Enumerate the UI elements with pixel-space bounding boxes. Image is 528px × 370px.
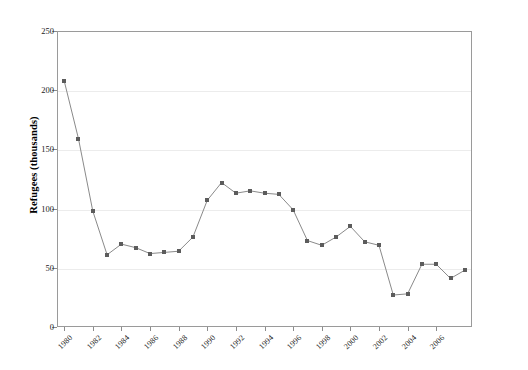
data-point-marker	[291, 208, 295, 212]
x-tick-mark	[350, 327, 351, 331]
gridline-y	[58, 150, 471, 151]
x-tick-mark	[436, 327, 437, 331]
x-tick-label: 1988	[171, 333, 189, 351]
x-tick-mark	[121, 327, 122, 331]
data-point-marker	[363, 240, 367, 244]
data-point-marker	[162, 250, 166, 254]
data-point-marker	[205, 198, 209, 202]
gridline-y	[58, 91, 471, 92]
x-tick-mark	[236, 327, 237, 331]
data-point-marker	[434, 262, 438, 266]
x-tick-mark	[322, 327, 323, 331]
data-point-marker	[105, 253, 109, 257]
data-point-marker	[277, 192, 281, 196]
refugees-line-chart: Refugees (thousands) 0501001502002501980…	[0, 0, 528, 370]
x-tick-mark	[379, 327, 380, 331]
x-tick-label: 1992	[228, 333, 246, 351]
x-tick-mark	[150, 327, 151, 331]
data-point-marker	[348, 224, 352, 228]
data-point-marker	[463, 268, 467, 272]
data-point-marker	[62, 79, 66, 83]
data-point-marker	[119, 242, 123, 246]
y-tick-label: 50	[14, 263, 54, 273]
x-tick-mark	[293, 327, 294, 331]
x-tick-label: 2000	[342, 333, 360, 351]
data-point-marker	[248, 189, 252, 193]
data-point-marker	[220, 181, 224, 185]
data-point-marker	[320, 243, 324, 247]
x-tick-label: 2002	[371, 333, 389, 351]
x-tick-label: 1984	[114, 333, 132, 351]
data-point-marker	[76, 137, 80, 141]
x-tick-mark	[207, 327, 208, 331]
x-tick-mark	[93, 327, 94, 331]
data-point-marker	[91, 209, 95, 213]
data-point-marker	[148, 252, 152, 256]
data-point-marker	[406, 292, 410, 296]
x-tick-label: 1996	[285, 333, 303, 351]
data-point-marker	[234, 191, 238, 195]
data-point-marker	[377, 243, 381, 247]
x-tick-mark	[179, 327, 180, 331]
plot-area	[57, 31, 472, 327]
data-point-marker	[134, 246, 138, 250]
gridline-y	[58, 210, 471, 211]
x-tick-label: 1986	[142, 333, 160, 351]
x-tick-mark	[265, 327, 266, 331]
x-tick-label: 1998	[314, 333, 332, 351]
x-tick-label: 1980	[56, 333, 74, 351]
data-point-marker	[334, 235, 338, 239]
x-tick-label: 1982	[85, 333, 103, 351]
y-tick-label: 200	[14, 85, 54, 95]
y-axis-title: Refugees (thousands)	[22, 0, 44, 330]
data-point-marker	[449, 276, 453, 280]
x-tick-label: 1990	[199, 333, 217, 351]
y-tick-label: 0	[14, 322, 54, 332]
gridline-y	[58, 269, 471, 270]
x-tick-label: 1994	[257, 333, 275, 351]
data-point-marker	[305, 239, 309, 243]
x-tick-label: 2006	[428, 333, 446, 351]
data-point-marker	[177, 249, 181, 253]
x-tick-mark	[64, 327, 65, 331]
x-tick-label: 2004	[400, 333, 418, 351]
y-tick-label: 250	[14, 26, 54, 36]
y-tick-label: 100	[14, 204, 54, 214]
y-tick-label: 150	[14, 144, 54, 154]
data-point-marker	[263, 191, 267, 195]
data-point-marker	[391, 293, 395, 297]
data-point-marker	[191, 235, 195, 239]
x-tick-mark	[408, 327, 409, 331]
data-point-marker	[420, 262, 424, 266]
